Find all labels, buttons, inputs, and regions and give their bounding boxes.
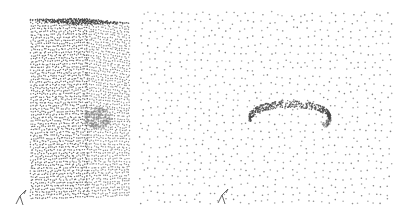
xyz-axes-icon (218, 189, 228, 204)
panel-left-box-point-cloud (0, 0, 140, 218)
field-point-cloud (130, 0, 396, 218)
xyz-axes-icon (16, 190, 26, 205)
box-point-cloud (0, 0, 140, 218)
panel-right-field-point-cloud (130, 0, 396, 218)
